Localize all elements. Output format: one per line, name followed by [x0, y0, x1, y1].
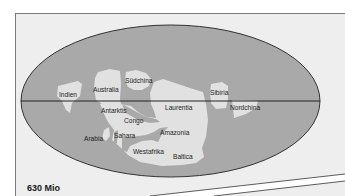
- label-suedchina: Südchina: [125, 77, 153, 84]
- label-arabia: Arabia: [84, 135, 103, 142]
- label-australia: Australia: [93, 86, 119, 93]
- label-sibiria: Sibiria: [210, 89, 229, 96]
- label-nordchina: Nordchina: [230, 104, 260, 111]
- label-antarktis: Antarktis: [101, 107, 127, 114]
- label-baltica: Baltica: [173, 153, 193, 160]
- label-laurentia: Laurentia: [165, 104, 193, 111]
- paleogeographic-map: Indien Australia Südchina Sibiria Nordch…: [0, 0, 345, 196]
- label-indien: Indien: [59, 91, 77, 98]
- label-amazonia: Amazonia: [160, 129, 190, 136]
- label-congo: Congo: [124, 117, 144, 125]
- time-label: 630 Mio: [27, 183, 60, 193]
- label-westafrika: Westafrika: [133, 148, 164, 155]
- label-sahara: Sahara: [114, 132, 136, 139]
